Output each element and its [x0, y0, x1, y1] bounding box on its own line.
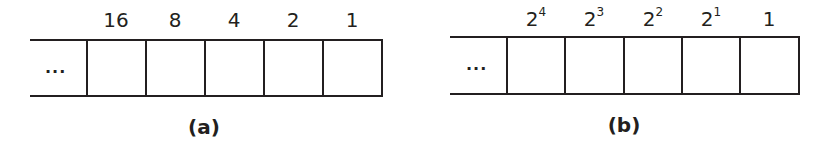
- ellipsis: ...: [466, 55, 487, 74]
- caption-a: (a): [174, 115, 234, 139]
- panel-b: ... 24 23 22 21 1 (b): [420, 0, 838, 151]
- place-value-label: 22: [624, 9, 682, 29]
- place-value-label: 1: [740, 9, 798, 29]
- cell-divider: [322, 39, 324, 97]
- cell-divider: [623, 36, 625, 95]
- place-value-label: 4: [205, 10, 263, 30]
- ellipsis: ...: [45, 58, 66, 77]
- place-value-label: 23: [565, 9, 623, 29]
- cell-divider: [145, 39, 147, 97]
- top-border: [30, 39, 383, 41]
- place-value-label: 2: [264, 10, 322, 30]
- panel-a: ... 16 8 4 2 1 (a): [0, 0, 420, 151]
- cell-divider: [506, 36, 508, 95]
- place-value-label: 16: [87, 10, 145, 30]
- cell-divider: [798, 36, 800, 95]
- cell-divider: [381, 39, 383, 97]
- cell-divider: [204, 39, 206, 97]
- top-border: [450, 36, 800, 38]
- cell-divider: [86, 39, 88, 97]
- place-value-label: 24: [507, 9, 565, 29]
- bottom-border: [30, 95, 383, 97]
- cell-divider: [681, 36, 683, 95]
- place-value-label: 8: [146, 10, 204, 30]
- place-value-label: 1: [323, 10, 381, 30]
- bottom-border: [450, 93, 800, 95]
- cell-divider: [564, 36, 566, 95]
- caption-b: (b): [594, 113, 654, 137]
- cell-divider: [263, 39, 265, 97]
- cell-divider: [739, 36, 741, 95]
- place-value-label: 21: [682, 9, 740, 29]
